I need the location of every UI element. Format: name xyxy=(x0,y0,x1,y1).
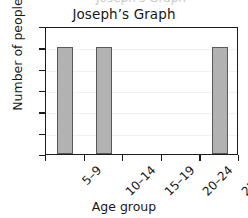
x-tick-label: 5–9 xyxy=(80,163,105,188)
x-tick-label: 25–29 xyxy=(238,163,248,199)
x-tick-label: 20–24 xyxy=(200,163,236,199)
bar[interactable] xyxy=(57,47,73,154)
bars-layer xyxy=(46,28,237,154)
x-tick-mark xyxy=(84,155,85,161)
x-axis-title: Age group xyxy=(0,199,248,214)
x-tick-label: 15–19 xyxy=(161,163,197,199)
chart-title: Joseph’s Graph xyxy=(0,6,248,22)
clipped-header-text: Joseph's Graph xyxy=(0,0,248,5)
x-tick-mark xyxy=(45,155,46,161)
bar[interactable] xyxy=(212,47,228,154)
x-tick-mark xyxy=(199,155,200,161)
plot-area xyxy=(45,27,238,155)
x-tick-label: 10–14 xyxy=(123,163,159,199)
bar-chart-figure: Joseph's Graph Joseph’s Graph Number of … xyxy=(0,0,248,218)
x-tick-mark xyxy=(238,155,239,161)
x-tick-mark xyxy=(122,155,123,161)
y-axis-title: Number of people xyxy=(10,0,25,119)
x-tick-mark xyxy=(161,155,162,161)
bar[interactable] xyxy=(96,47,112,154)
